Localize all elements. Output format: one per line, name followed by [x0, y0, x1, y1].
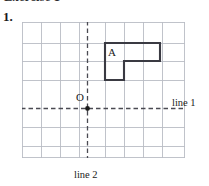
figure-root: Exercise 1 1. [0, 0, 209, 186]
coordinate-grid-plot [22, 22, 185, 158]
line-1-label: line 1 [172, 98, 196, 109]
problem-number: 1. [3, 10, 13, 24]
shape-a-label: A [108, 47, 116, 58]
origin-dot [85, 106, 90, 111]
grid-svg [22, 22, 185, 158]
exercise-header: Exercise 1 [4, 0, 60, 4]
origin-label: O [76, 92, 84, 103]
line-2-label: line 2 [74, 170, 98, 181]
